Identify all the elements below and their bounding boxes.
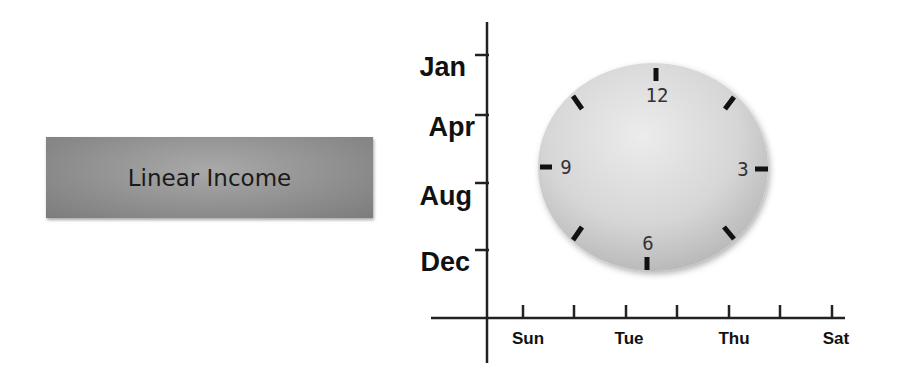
x-label-tue: Tue [599,329,659,349]
y-label-aug: Aug [392,181,472,212]
y-axis [475,22,489,363]
clock-number-6: 6 [638,232,658,254]
clock-number-9: 9 [556,156,576,178]
y-label-jan: Jan [386,52,466,83]
x-label-sat: Sat [806,329,866,349]
x-label-sun: Sun [498,329,558,349]
x-axis [431,305,845,318]
y-label-apr: Apr [395,112,475,143]
y-label-dec: Dec [390,247,470,278]
clock-number-12: 12 [640,84,674,106]
clock-number-3: 3 [733,158,753,180]
x-label-thu: Thu [704,329,764,349]
